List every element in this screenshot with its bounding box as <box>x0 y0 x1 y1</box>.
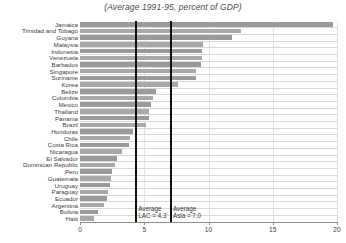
x-tick-20 <box>337 222 338 225</box>
x-tick-10 <box>209 222 210 225</box>
bar <box>80 116 149 121</box>
x-tick-0 <box>80 222 81 225</box>
x-tick-label-0: 0 <box>78 226 82 233</box>
average-lac-reference-line <box>135 21 137 222</box>
bar <box>80 62 201 67</box>
bar <box>80 102 151 107</box>
bar <box>80 96 153 101</box>
average-lac-annotation: Average LAC = 4.3 <box>138 205 166 219</box>
bar <box>80 210 98 215</box>
row-separator <box>80 155 337 156</box>
row-separator <box>80 168 337 169</box>
bar <box>80 136 130 141</box>
bar <box>80 49 202 54</box>
plot-area <box>80 21 337 222</box>
x-tick-label-10: 10 <box>205 226 212 233</box>
bar <box>80 76 196 81</box>
y-axis-label: Haiti <box>66 216 78 222</box>
average-lac-annotation-line1: Average <box>138 205 166 212</box>
bar <box>80 129 133 134</box>
average-asia-reference-line <box>170 21 172 222</box>
bar <box>80 42 203 47</box>
bar <box>80 216 94 221</box>
bar <box>80 89 156 94</box>
bar <box>80 56 202 61</box>
chart-title: (Average 1991-95, percent of GDP) <box>0 2 346 12</box>
x-tick-label-5: 5 <box>142 226 146 233</box>
row-separator <box>80 188 337 189</box>
bar <box>80 149 122 154</box>
bar <box>80 109 149 114</box>
row-separator <box>80 161 337 162</box>
average-asia-annotation-line1: Average <box>173 205 201 212</box>
bar <box>80 156 117 161</box>
x-tick-label-20: 20 <box>333 226 340 233</box>
x-tick-15 <box>273 222 274 225</box>
bar-chart: (Average 1991-95, percent of GDP) Averag… <box>0 0 346 243</box>
bar <box>80 190 108 195</box>
bar <box>80 29 241 34</box>
row-separator <box>80 175 337 176</box>
bar <box>80 176 111 181</box>
bar <box>80 143 129 148</box>
bar <box>80 203 104 208</box>
bar <box>80 183 110 188</box>
x-tick-label-15: 15 <box>269 226 276 233</box>
row-separator <box>80 208 337 209</box>
x-tick-5 <box>144 222 145 225</box>
bar <box>80 82 178 87</box>
bar <box>80 69 196 74</box>
row-separator <box>80 215 337 216</box>
bar <box>80 196 107 201</box>
bar <box>80 163 115 168</box>
average-asia-annotation: Average Asia = 7.0 <box>173 205 201 219</box>
row-separator <box>80 181 337 182</box>
average-lac-annotation-line2: LAC = 4.3 <box>138 212 166 219</box>
row-separator <box>80 195 337 196</box>
bar <box>80 169 112 174</box>
bar <box>80 35 232 40</box>
row-separator <box>80 201 337 202</box>
bar <box>80 22 333 27</box>
average-asia-annotation-line2: Asia = 7.0 <box>173 212 201 219</box>
gridline-20 <box>337 21 338 222</box>
